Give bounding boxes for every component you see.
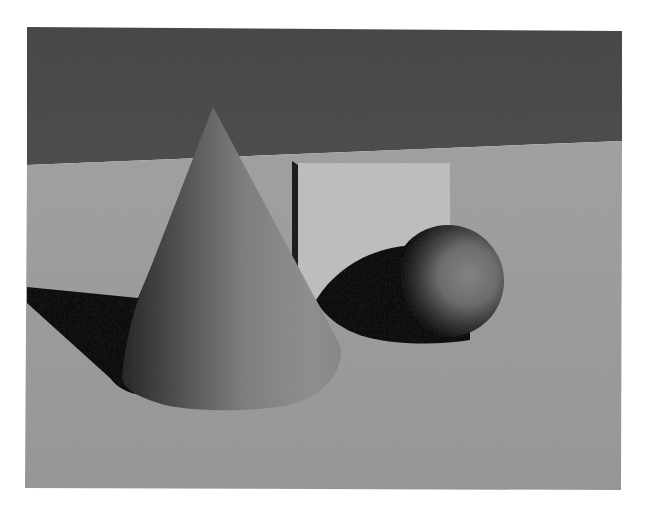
rendered-scene (0, 0, 651, 508)
sphere (392, 225, 504, 337)
back-wall (27, 27, 622, 165)
